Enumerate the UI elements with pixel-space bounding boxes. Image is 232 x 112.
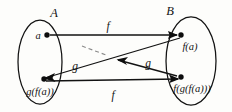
arrow-g-upper-line — [45, 38, 180, 78]
node-dot-fgfa — [178, 74, 183, 79]
diagram-canvas: A B a g(f(a)) f(a) f(g(f(a))) f g f g — [0, 0, 232, 112]
arrow-f-bottom-line — [46, 79, 178, 81]
arrow-label-g-upper: g — [72, 60, 78, 73]
arrow-label-f-top: f — [106, 20, 111, 33]
node-dot-a — [44, 32, 49, 37]
arrow-g-lower-head — [117, 57, 129, 65]
arrow-label-f-bottom: f — [111, 89, 116, 102]
element-label-fa: f(a) — [182, 41, 198, 53]
function-composition-diagram: A B a g(f(a)) f(a) f(g(f(a))) f g f g — [0, 0, 232, 112]
element-label-a: a — [35, 30, 40, 41]
dashed-hint-line — [82, 46, 106, 55]
arrow-label-g-lower: g — [145, 57, 151, 70]
set-a-label: A — [49, 6, 58, 20]
node-dot-fa — [178, 32, 183, 37]
set-b-label: B — [166, 4, 174, 18]
element-label-gfa: g(f(a)) — [26, 86, 54, 98]
arrow-f-top-head — [168, 31, 178, 39]
node-dot-gfa — [41, 76, 46, 81]
element-label-fgfa: f(g(f(a))) — [173, 83, 211, 95]
